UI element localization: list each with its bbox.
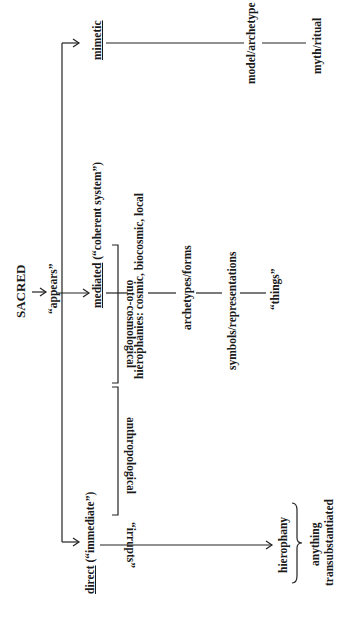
- brace-note-line1: anything: [310, 523, 322, 566]
- branch-label-direct: direct (“immediate”): [85, 492, 97, 594]
- curly-brace-icon: [292, 503, 302, 583]
- node-things: “things”: [270, 268, 282, 310]
- onto-cosmological-bracket: [112, 245, 118, 383]
- node-hierophany: hierophany: [278, 517, 290, 573]
- group-label-onto-cosmological: onto-cosmological: [124, 280, 136, 368]
- root-verb-appears: “appears”: [48, 264, 60, 314]
- node-archetypes-forms: archetypes/forms: [182, 245, 194, 330]
- direct-word: direct: [84, 565, 96, 594]
- arrow-label-irrupts: “irrupts”: [124, 522, 136, 568]
- node-model-archetype: model/archetype: [246, 2, 258, 84]
- branch-label-mediated: mediated (“coherent system”): [92, 162, 104, 308]
- brace-note-line2: transubstantiated: [324, 499, 336, 586]
- branch-label-mimetic: mimetic: [92, 20, 104, 60]
- direct-note: (“immediate”): [84, 492, 96, 563]
- group-label-anthropological: anthropological: [124, 417, 136, 494]
- anthropological-bracket: [112, 387, 118, 515]
- node-myth-ritual: myth/ritual: [312, 18, 324, 74]
- diagram-canvas: SACRED “appears” mimetic model/archetype…: [0, 0, 354, 620]
- mediated-note: (“coherent system”): [91, 162, 103, 260]
- node-symbols-representations: symbols/representations: [227, 252, 239, 370]
- root-label-sacred: SACRED: [14, 265, 27, 318]
- mediated-word: mediated: [91, 263, 103, 308]
